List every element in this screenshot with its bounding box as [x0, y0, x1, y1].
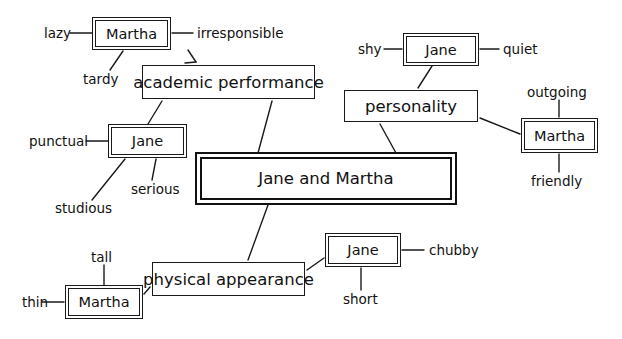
edge-academic-to-martha — [185, 62, 196, 63]
person-node-martha-academic-label: Martha — [106, 26, 157, 42]
person-node-jane-physical-label: Jane — [347, 242, 378, 258]
person-node-martha-personality[interactable]: Martha — [524, 121, 595, 150]
edge-physical-to-jane — [307, 258, 324, 270]
edge-personality-to-jane — [418, 66, 432, 88]
person-node-jane-academic[interactable]: Jane — [111, 127, 184, 155]
edge-academic-to-jane — [148, 101, 162, 124]
concept-map-canvas: Jane and Martha academic performance per… — [0, 0, 622, 339]
trait-label-tall: tall — [91, 249, 112, 265]
trait-label-outgoing: outgoing — [527, 84, 587, 100]
trait-label-short: short — [343, 291, 378, 307]
edge-jane-studious — [92, 159, 125, 200]
category-node-personality-label: personality — [365, 97, 457, 116]
trait-label-thin: thin — [22, 294, 48, 310]
person-node-jane-academic-label: Jane — [132, 133, 163, 149]
edge-martha-tardy — [110, 51, 123, 70]
edge-jane-serious — [152, 159, 156, 180]
category-node-physical-appearance[interactable]: physical appearance — [152, 262, 305, 296]
central-node-label: Jane and Martha — [258, 169, 393, 188]
category-node-personality[interactable]: personality — [344, 90, 478, 122]
trait-label-studious: studious — [55, 200, 112, 216]
trait-label-punctual: punctual — [29, 133, 88, 149]
trait-label-tardy: tardy — [83, 71, 118, 87]
trait-label-shy: shy — [358, 41, 382, 57]
trait-label-lazy: lazy — [44, 25, 71, 41]
trait-label-quiet: quiet — [503, 41, 537, 57]
trait-label-serious: serious — [131, 181, 180, 197]
person-node-jane-personality[interactable]: Jane — [406, 36, 476, 63]
category-node-academic-performance-label: academic performance — [133, 73, 324, 92]
edge-central-to-physical — [248, 205, 268, 260]
edge-physical-to-martha — [144, 287, 150, 294]
trait-label-friendly: friendly — [531, 173, 582, 189]
person-node-martha-physical[interactable]: Martha — [68, 288, 140, 316]
person-node-martha-physical-label: Martha — [78, 294, 129, 310]
trait-label-chubby: chubby — [429, 242, 479, 258]
central-node-jane-and-martha[interactable]: Jane and Martha — [200, 157, 452, 200]
edge-academic-to-martha-2 — [188, 50, 196, 62]
person-node-jane-physical[interactable]: Jane — [328, 236, 398, 264]
trait-label-irresponsible: irresponsible — [197, 25, 283, 41]
edge-central-to-personality — [380, 124, 396, 153]
edge-personality-to-martha — [480, 118, 520, 134]
edge-central-to-academic — [258, 101, 272, 153]
person-node-martha-academic[interactable]: Martha — [95, 20, 168, 47]
category-node-physical-appearance-label: physical appearance — [143, 270, 314, 289]
category-node-academic-performance[interactable]: academic performance — [142, 65, 315, 99]
person-node-martha-personality-label: Martha — [534, 128, 585, 144]
person-node-jane-personality-label: Jane — [425, 42, 456, 58]
